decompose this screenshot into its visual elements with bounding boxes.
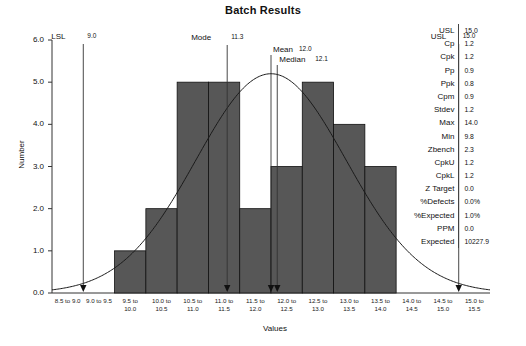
histogram-bar	[334, 124, 365, 293]
y-tick-label: 1.0	[14, 246, 44, 255]
stat-row: Z Target0.0	[394, 182, 522, 195]
stat-row: USL15.0	[394, 24, 522, 37]
stat-label: Stdev	[394, 105, 458, 114]
stat-label: Pp	[394, 66, 458, 75]
marker-value: 12.0	[299, 45, 312, 52]
y-tick-label: 3.0	[14, 162, 44, 171]
x-tick-label: 15.0 to15.5	[452, 297, 497, 312]
stat-row: Expected10227.9	[394, 235, 522, 248]
stat-value: 1.2	[458, 103, 522, 116]
marker-name: Median	[279, 55, 305, 64]
stat-label: Min	[394, 132, 458, 141]
stat-row: Max14.0	[394, 116, 522, 129]
stat-row: Zbench2.3	[394, 143, 522, 156]
marker-name: Mode	[191, 33, 211, 42]
marker-name: Mean	[273, 45, 293, 54]
stat-label: CpkL	[394, 171, 458, 180]
y-tick-label: 2.0	[14, 204, 44, 213]
histogram-bar	[146, 209, 177, 293]
statistics-panel: USL15.0Cp1.2Cpk1.2Pp0.9Ppk0.8Cpm0.9Stdev…	[394, 24, 522, 248]
stat-row: PPM0.0	[394, 222, 522, 235]
stat-value: 9.8	[458, 130, 522, 143]
stat-row: Cpk1.2	[394, 50, 522, 63]
y-tick-label: 4.0	[14, 119, 44, 128]
stat-row: Stdev1.2	[394, 103, 522, 116]
marker-arrowhead	[456, 285, 462, 292]
stat-value: 0.9	[458, 64, 522, 77]
stat-label: Cpm	[394, 92, 458, 101]
stat-label: Zbench	[394, 145, 458, 154]
stat-label: Max	[394, 118, 458, 127]
stat-label: Cpk	[394, 52, 458, 61]
histogram-bar	[365, 167, 396, 294]
stat-row: Min9.8	[394, 130, 522, 143]
histogram-bar	[302, 82, 333, 293]
stat-value: 15.0	[458, 24, 522, 37]
stat-value: 1.0%	[458, 209, 522, 222]
y-tick-label: 0.0	[14, 288, 44, 297]
histogram-bar	[115, 251, 146, 293]
stat-row: Cpm0.9	[394, 90, 522, 103]
marker-value: 9.0	[87, 32, 96, 39]
histogram-bar	[177, 82, 208, 293]
marker-name: LSL	[51, 32, 65, 41]
stat-row: Cp1.2	[394, 37, 522, 50]
marker-value: 11.3	[231, 33, 243, 40]
marker-arrowhead	[80, 285, 86, 292]
stat-row: CpkL1.2	[394, 169, 522, 182]
stat-label: Z Target	[394, 184, 458, 193]
histogram-bar	[271, 167, 302, 294]
stat-value: 0.9	[458, 90, 522, 103]
stat-label: Expected	[394, 237, 458, 246]
y-tick-label: 6.0	[14, 35, 44, 44]
stat-label: CpkU	[394, 158, 458, 167]
stat-row: %Defects0.0%	[394, 195, 522, 208]
stat-value: 0.0	[458, 222, 522, 235]
stat-label: PPM	[394, 224, 458, 233]
stat-value: 2.3	[458, 143, 522, 156]
stat-value: 10227.9	[458, 235, 522, 248]
marker-value: 12.1	[315, 55, 328, 62]
stat-value: 1.2	[458, 50, 522, 63]
stat-value: 0.0	[458, 182, 522, 195]
stat-row: Ppk0.8	[394, 77, 522, 90]
stat-label: %Expected	[394, 211, 458, 220]
stat-value: 0.8	[458, 77, 522, 90]
histogram-bar	[240, 209, 271, 293]
chart-screenshot: Batch Results Number Values 0.01.02.03.0…	[0, 0, 526, 346]
bar-series	[115, 82, 397, 293]
stat-label: Ppk	[394, 79, 458, 88]
stat-row: %Expected1.0%	[394, 209, 522, 222]
stat-label: USL	[394, 26, 458, 35]
stat-row: CpkU1.2	[394, 156, 522, 169]
stat-value: 14.0	[458, 116, 522, 129]
stat-value: 1.2	[458, 156, 522, 169]
histogram-bar	[208, 82, 239, 293]
stat-label: %Defects	[394, 197, 458, 206]
stat-value: 0.0%	[458, 195, 522, 208]
stat-row: Pp0.9	[394, 64, 522, 77]
y-tick-label: 5.0	[14, 77, 44, 86]
stat-value: 1.2	[458, 169, 522, 182]
stat-label: Cp	[394, 39, 458, 48]
stat-value: 1.2	[458, 37, 522, 50]
